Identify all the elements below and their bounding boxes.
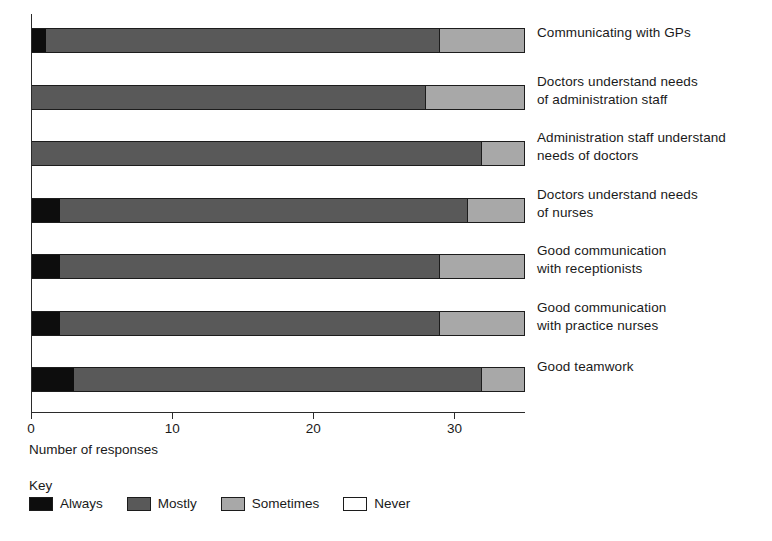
legend-swatch-never <box>343 497 367 511</box>
x-axis-tick <box>454 412 455 419</box>
bar-row <box>31 28 525 53</box>
bar-row <box>31 198 525 223</box>
plot-area <box>31 14 525 406</box>
category-label: Doctors understand needs of administrati… <box>537 73 698 109</box>
bar-segment-mostly <box>32 142 482 165</box>
bar-segment-sometimes <box>468 199 524 222</box>
legend-label: Never <box>374 496 410 511</box>
bar-segment-always <box>32 29 46 52</box>
legend-item: Mostly <box>127 496 197 511</box>
bar-segment-always <box>32 255 60 278</box>
x-axis-tick-label: 20 <box>306 421 321 436</box>
category-label: Administration staff understand needs of… <box>537 129 726 165</box>
category-label: Good communication with practice nurses <box>537 299 666 335</box>
legend-item: Always <box>29 496 103 511</box>
x-axis-title: Number of responses <box>29 442 158 457</box>
category-label: Good communication with receptionists <box>537 242 666 278</box>
legend-item: Sometimes <box>221 496 320 511</box>
bar-row <box>31 311 525 336</box>
bar-row <box>31 85 525 110</box>
legend-label: Always <box>60 496 103 511</box>
bar-segment-sometimes <box>426 86 524 109</box>
y-axis-line <box>31 14 32 412</box>
bar-segment-always <box>32 312 60 335</box>
bar-segment-sometimes <box>440 29 524 52</box>
x-axis-tick-label: 0 <box>27 421 35 436</box>
bar-segment-sometimes <box>482 142 524 165</box>
bar-segment-mostly <box>60 199 468 222</box>
legend: AlwaysMostlySometimesNever <box>29 496 434 511</box>
bar-segment-mostly <box>60 255 440 278</box>
stacked-bar-chart: 0102030 Number of responses Key AlwaysMo… <box>0 0 772 541</box>
bar-segment-sometimes <box>440 312 524 335</box>
category-label: Communicating with GPs <box>537 24 691 42</box>
x-axis-tick <box>313 412 314 419</box>
bar-segment-sometimes <box>482 368 524 391</box>
bar-segment-mostly <box>32 86 426 109</box>
bar-row <box>31 254 525 279</box>
legend-swatch-always <box>29 497 53 511</box>
bar-segment-sometimes <box>440 255 524 278</box>
x-axis-tick-label: 10 <box>165 421 180 436</box>
legend-swatch-mostly <box>127 497 151 511</box>
x-axis-line <box>31 412 525 413</box>
x-axis-tick <box>172 412 173 419</box>
x-axis-tick <box>31 412 32 419</box>
bar-segment-mostly <box>60 312 440 335</box>
bar-segment-mostly <box>46 29 440 52</box>
legend-label: Sometimes <box>252 496 320 511</box>
bar-segment-mostly <box>74 368 482 391</box>
legend-label: Mostly <box>158 496 197 511</box>
bar-segment-always <box>32 368 74 391</box>
bar-segment-always <box>32 199 60 222</box>
bar-row <box>31 367 525 392</box>
legend-title: Key <box>29 478 52 493</box>
x-axis-tick-label: 30 <box>447 421 462 436</box>
legend-item: Never <box>343 496 410 511</box>
category-label: Doctors understand needs of nurses <box>537 186 698 222</box>
category-label: Good teamwork <box>537 358 634 376</box>
legend-swatch-sometimes <box>221 497 245 511</box>
bar-row <box>31 141 525 166</box>
